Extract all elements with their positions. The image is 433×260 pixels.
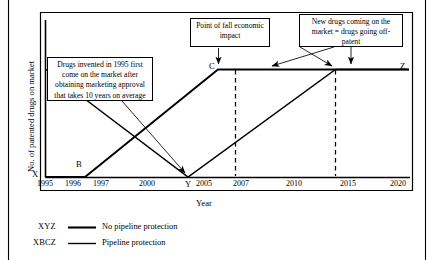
legend-label-no-pipeline-protection: No pipeline protection [102, 222, 177, 231]
leader-left-callout [122, 101, 185, 173]
figure-container: No. of patented drugs on market Year 199… [0, 0, 433, 260]
x-tick-label-2000: 2000 [139, 180, 155, 189]
callout-drugs-invented-1995: Drugs invented in 1995 first come on the… [47, 57, 153, 101]
dashed-marker-lines [236, 70, 336, 176]
x-tick-label-1995: 1995 [37, 180, 53, 189]
x-tick-label-2015: 2015 [340, 180, 356, 189]
y-axis-title: No. of patented drugs on market [26, 61, 36, 172]
legend-rules [68, 228, 96, 244]
x-tick-label-1997: 1997 [93, 180, 109, 189]
legend-label-pipeline-protection: Pipeline protection [102, 238, 166, 247]
point-label-c: C [209, 62, 215, 72]
x-tick-label-2007: 2007 [233, 180, 249, 189]
point-label-z: Z [400, 62, 405, 72]
callout-new-drugs-off-patent: New drugs coming on the market = drugs g… [299, 14, 403, 47]
leader-right-callout [272, 47, 351, 66]
x-tick-label-2020: 2020 [390, 180, 406, 189]
callout-point-of-fall-economic-impact: Point of fall economic impact [190, 18, 270, 47]
x-tick-label-1996: 1996 [65, 180, 81, 189]
x-tick-label-2005: 2005 [196, 180, 212, 189]
x-axis-title: Year [196, 199, 212, 209]
x-tick-label-2010: 2010 [286, 180, 302, 189]
legend-key-xyz: XYZ [38, 222, 56, 231]
point-label-x: X [32, 170, 38, 180]
point-label-y: Y [185, 180, 191, 190]
legend-key-xbcz: XBCZ [33, 238, 56, 247]
point-label-b: B [76, 160, 82, 170]
